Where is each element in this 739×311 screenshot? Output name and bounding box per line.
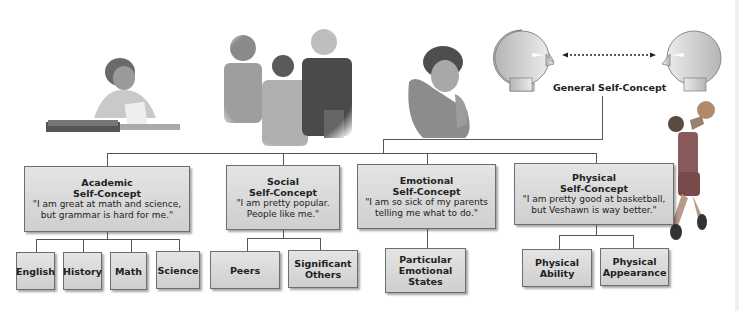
academic-self-concept-box: Academic Self-Concept "I am great at mat…: [24, 166, 190, 232]
connector-emotional: [427, 153, 428, 164]
subdomain-math: Math: [110, 252, 147, 290]
physical-quote-line1: "I am pretty good at basketball,: [523, 194, 666, 205]
connector-academic-down: [107, 232, 108, 239]
connector-history: [83, 239, 84, 252]
connector-social: [283, 153, 284, 165]
connector-math: [131, 239, 132, 252]
subdomain-history: History: [63, 252, 102, 290]
pensive-teen-illustration: [405, 40, 475, 140]
right-edge-border: [735, 0, 739, 311]
social-quote-line1: "I am pretty popular.: [236, 198, 329, 209]
subdomain-science: Science: [156, 251, 200, 289]
connector-english: [36, 239, 37, 252]
subdomain-particular-emotional-states: Particular Emotional States: [385, 248, 466, 293]
social-self-concept-box: Social Self-Concept "I am pretty popular…: [226, 165, 340, 230]
social-quote-line2: People like me.": [247, 209, 319, 220]
connector-physical-horizontal: [559, 235, 634, 236]
subdomain-physical-appearance: Physical Appearance: [600, 248, 669, 286]
emotional-quote-line1: "I am so sick of my parents: [365, 197, 488, 208]
connector-science: [179, 239, 180, 251]
connector-root-horizontal: [383, 139, 603, 140]
emotional-self-concept-box: Emotional Self-Concept "I am so sick of …: [357, 164, 496, 229]
social-title-line2: Self-Concept: [249, 187, 317, 198]
connector-emotional-down: [427, 229, 428, 249]
connector-social-horizontal: [247, 238, 321, 239]
physical-title-line1: Physical: [572, 172, 616, 183]
connector-academic: [107, 153, 108, 166]
connector-physical-appearance: [633, 235, 634, 248]
emotional-title-line2: Self-Concept: [392, 186, 460, 197]
academic-quote-line2: but grammar is hard for me.": [41, 210, 173, 221]
academic-quote-line1: "I am great at math and science,: [33, 199, 181, 210]
group-of-friends-illustration: [218, 18, 358, 148]
subdomain-physical-ability: Physical Ability: [522, 249, 592, 287]
subdomain-peers: Peers: [210, 251, 280, 289]
general-self-concept-label: General Self-Concept: [553, 82, 666, 93]
academic-title-line1: Academic: [81, 177, 132, 188]
academic-title-line2: Self-Concept: [73, 188, 141, 199]
connector-academic-horizontal: [36, 239, 179, 240]
physical-title-line2: Self-Concept: [560, 183, 628, 194]
connector-physical-down: [596, 225, 597, 235]
connector-significant-others: [320, 238, 321, 250]
emotional-quote-line2: telling me what to do.": [375, 208, 478, 219]
connector-social-down: [283, 230, 284, 238]
subdomain-significant-others: Significant Others: [288, 250, 358, 288]
connector-physical-ability: [559, 235, 560, 249]
physical-self-concept-box: Physical Self-Concept "I am pretty good …: [514, 163, 674, 225]
physical-quote-line2: but Veshawn is way better.": [531, 205, 656, 216]
connector-main-horizontal: [107, 153, 597, 154]
connector-root-to-main: [383, 139, 384, 153]
connector-peers: [247, 238, 248, 251]
connector-physical: [596, 153, 597, 163]
subdomain-english: English: [16, 252, 55, 290]
emotional-title-line1: Emotional: [400, 175, 454, 186]
social-title-line1: Social: [267, 176, 299, 187]
connector-root-down: [602, 96, 603, 140]
student-reading-illustration: [44, 48, 184, 140]
